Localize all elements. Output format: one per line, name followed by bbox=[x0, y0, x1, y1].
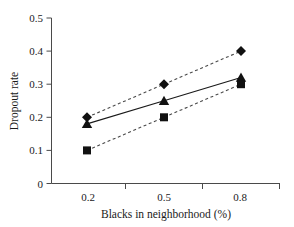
data-point-upper-0.8 bbox=[236, 46, 246, 56]
y-tick-label-0.2: 0.2 bbox=[29, 111, 43, 123]
data-point-upper-0.5 bbox=[159, 79, 169, 89]
y-tick-label-0.4: 0.4 bbox=[29, 45, 43, 57]
y-tick-label-0.3: 0.3 bbox=[29, 78, 43, 90]
y-tick-label-0.1: 0.1 bbox=[29, 144, 43, 156]
y-tick-label-0: 0 bbox=[38, 178, 44, 190]
data-point-lower-0.8 bbox=[237, 80, 245, 88]
data-point-estimate-0.2 bbox=[82, 119, 92, 128]
data-point-estimate-0.5 bbox=[159, 96, 169, 105]
y-tick-label-0.5: 0.5 bbox=[29, 12, 43, 24]
x-tick-label-0.8: 0.8 bbox=[233, 191, 247, 203]
data-point-lower-0.2 bbox=[83, 146, 91, 154]
x-axis-title: Blacks in neighborhood (%) bbox=[101, 208, 231, 221]
chart-figure: 0.5 0.4 0.3 0.2 0.1 0 0.2 0.5 0.8 Blacks… bbox=[0, 0, 294, 227]
data-point-lower-0.5 bbox=[160, 113, 168, 121]
x-tick-label-0.5: 0.5 bbox=[157, 191, 171, 203]
dropout-rate-line-chart: 0.5 0.4 0.3 0.2 0.1 0 0.2 0.5 0.8 Blacks… bbox=[0, 0, 294, 227]
y-axis-title: Dropout rate bbox=[8, 72, 21, 130]
x-tick-label-0.2: 0.2 bbox=[81, 191, 95, 203]
